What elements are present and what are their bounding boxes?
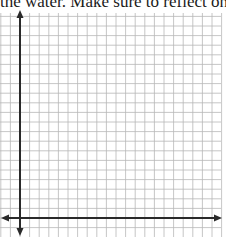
- grid-lines: [0, 13, 222, 237]
- coordinate-grid: [0, 0, 226, 237]
- arrow-left-icon: [1, 215, 9, 222]
- arrow-up-icon: [17, 10, 24, 18]
- arrow-down-icon: [17, 228, 24, 236]
- y-axis: [17, 10, 24, 236]
- arrow-right-icon: [214, 215, 222, 222]
- x-axis: [1, 215, 222, 222]
